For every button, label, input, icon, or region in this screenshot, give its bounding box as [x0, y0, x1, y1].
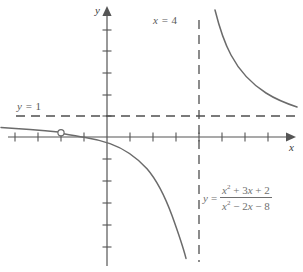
function-equation: y = x2 + 3x + 2 x2 − 2x − 8	[203, 183, 272, 213]
num-plus-two: + 2	[253, 184, 270, 196]
hole-open-circle	[58, 130, 64, 136]
rational-function-graph: y x x = 4 y = 1 y = x2 + 3x + 2 x2 − 2x …	[0, 0, 303, 272]
curve-left-branch	[1, 127, 61, 132]
num-plus-three: + 3	[231, 184, 248, 196]
equation-equals: =	[211, 192, 217, 204]
equation-denominator: x2 − 2x − 8	[220, 198, 272, 212]
x-axis-label: x	[289, 141, 294, 153]
equation-numerator: x2 + 3x + 2	[220, 183, 272, 198]
x-axis	[8, 132, 296, 141]
equation-lhs: y	[203, 192, 208, 204]
y-axis	[102, 6, 111, 266]
vertical-asymptote-label: x = 4	[153, 14, 178, 26]
y-axis-label: y	[95, 4, 100, 16]
curve-middle-branch	[61, 133, 186, 258]
curve-right-branch	[215, 10, 297, 107]
plot-canvas	[0, 0, 303, 272]
va-equation: = 4	[158, 14, 177, 26]
horizontal-asymptote-label: y = 1	[17, 100, 42, 112]
den-minus-two: − 2	[231, 200, 248, 212]
den-minus-eight: − 8	[253, 200, 270, 212]
ha-equation: = 1	[22, 100, 41, 112]
equation-fraction: x2 + 3x + 2 x2 − 2x − 8	[220, 183, 272, 213]
